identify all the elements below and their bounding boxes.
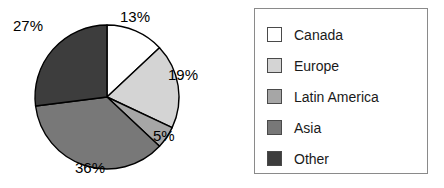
legend-label-canada: Canada bbox=[294, 27, 343, 43]
chart-legend: CanadaEuropeLatin AmericaAsiaOther bbox=[254, 8, 428, 174]
pie-percentage-label-europe: 19% bbox=[168, 66, 198, 83]
legend-swatch-other bbox=[267, 151, 282, 166]
legend-swatch-canada bbox=[267, 27, 282, 42]
legend-label-other: Other bbox=[294, 151, 329, 167]
pie-slice-group bbox=[35, 25, 179, 169]
legend-swatch-asia bbox=[267, 120, 282, 135]
legend-item-other[interactable]: Other bbox=[267, 144, 427, 173]
legend-item-list: CanadaEuropeLatin AmericaAsiaOther bbox=[255, 9, 427, 173]
pie-slice-other[interactable] bbox=[35, 25, 107, 106]
pie-percentage-label-latin-america: 5% bbox=[153, 127, 175, 144]
legend-item-latin-america[interactable]: Latin America bbox=[267, 82, 427, 111]
legend-swatch-latin-america bbox=[267, 89, 282, 104]
pie-percentage-label-other: 27% bbox=[13, 17, 43, 34]
legend-item-asia[interactable]: Asia bbox=[267, 113, 427, 142]
pie-percentage-label-canada: 13% bbox=[120, 8, 150, 25]
pie-chart-area: 13%19%5%36%27% bbox=[0, 0, 240, 188]
pie-chart-figure: 13%19%5%36%27% CanadaEuropeLatin America… bbox=[0, 0, 444, 188]
legend-swatch-europe bbox=[267, 58, 282, 73]
legend-label-europe: Europe bbox=[294, 58, 339, 74]
legend-item-canada[interactable]: Canada bbox=[267, 20, 427, 49]
pie-percentage-label-asia: 36% bbox=[75, 159, 105, 176]
legend-label-latin-america: Latin America bbox=[294, 89, 379, 105]
legend-label-asia: Asia bbox=[294, 120, 321, 136]
legend-item-europe[interactable]: Europe bbox=[267, 51, 427, 80]
